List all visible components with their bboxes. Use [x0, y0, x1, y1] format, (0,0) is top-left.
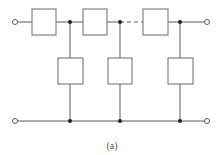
shunt-impedance-box	[168, 58, 193, 84]
series-impedance-box	[143, 9, 168, 35]
junction-node	[68, 119, 72, 123]
series-impedance-box	[83, 9, 107, 35]
junction-node	[178, 119, 182, 123]
junction-node	[118, 20, 122, 24]
ladder-network-diagram	[0, 0, 224, 155]
terminal-output-bottom	[205, 119, 210, 124]
figure-caption: (a)	[0, 140, 224, 151]
junction-node	[178, 20, 182, 24]
terminal-input-top	[13, 20, 18, 25]
shunt-impedance-box	[58, 58, 83, 84]
junction-node	[118, 119, 122, 123]
series-impedance-box	[32, 9, 56, 35]
terminal-output-top	[205, 20, 210, 25]
terminal-input-bottom	[13, 119, 18, 124]
junction-node	[68, 20, 72, 24]
shunt-impedance-box	[108, 58, 132, 84]
